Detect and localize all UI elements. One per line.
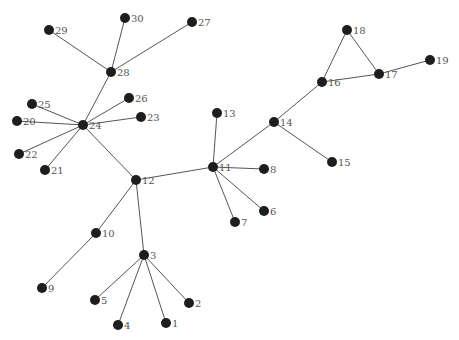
node-20[interactable]: [12, 116, 22, 126]
node-7[interactable]: [230, 217, 240, 227]
node-10[interactable]: [91, 228, 101, 238]
node-6[interactable]: [259, 206, 269, 216]
node-label-30: 30: [131, 13, 144, 24]
node-label-29: 29: [55, 25, 68, 36]
edge-24-12: [83, 125, 136, 180]
node-28[interactable]: [106, 67, 116, 77]
node-label-13: 13: [223, 108, 236, 119]
node-4[interactable]: [113, 320, 123, 330]
node-label-3: 3: [150, 250, 156, 261]
node-15[interactable]: [327, 157, 337, 167]
edge-16-18: [322, 30, 347, 82]
node-label-24: 24: [89, 120, 102, 131]
edge-3-4: [118, 255, 144, 325]
node-5[interactable]: [90, 295, 100, 305]
edge-18-17: [347, 30, 379, 74]
node-label-19: 19: [436, 55, 449, 66]
edge-28-29: [49, 30, 111, 72]
node-label-8: 8: [270, 164, 276, 175]
node-label-18: 18: [353, 25, 366, 36]
node-27[interactable]: [187, 17, 197, 27]
node-label-11: 11: [219, 162, 232, 173]
node-26[interactable]: [124, 93, 134, 103]
network-graph: 1234567891011121314151617181920212223242…: [0, 0, 459, 340]
node-label-23: 23: [147, 112, 160, 123]
node-label-7: 7: [241, 217, 247, 228]
node-label-22: 22: [25, 149, 38, 160]
node-8[interactable]: [259, 164, 269, 174]
node-label-26: 26: [135, 93, 148, 104]
node-label-5: 5: [101, 295, 107, 306]
edge-11-14: [213, 122, 274, 167]
node-label-17: 17: [385, 69, 398, 80]
node-label-16: 16: [328, 77, 341, 88]
edge-28-30: [111, 18, 125, 72]
edge-11-7: [213, 167, 235, 222]
edge-28-27: [111, 22, 192, 72]
node-17[interactable]: [374, 69, 384, 79]
node-2[interactable]: [184, 298, 194, 308]
edge-3-1: [144, 255, 166, 323]
node-25[interactable]: [27, 99, 37, 109]
node-label-12: 12: [142, 175, 155, 186]
edge-3-5: [95, 255, 144, 300]
edge-12-10: [96, 180, 136, 233]
node-30[interactable]: [120, 13, 130, 23]
node-label-4: 4: [124, 320, 130, 331]
node-label-6: 6: [270, 206, 276, 217]
node-23[interactable]: [136, 112, 146, 122]
node-29[interactable]: [44, 25, 54, 35]
node-label-27: 27: [198, 17, 211, 28]
node-label-15: 15: [338, 157, 351, 168]
node-3[interactable]: [139, 250, 149, 260]
node-13[interactable]: [212, 108, 222, 118]
node-24[interactable]: [78, 120, 88, 130]
node-label-2: 2: [195, 298, 201, 309]
edge-24-21: [45, 125, 83, 170]
edge-11-6: [213, 167, 264, 211]
node-1[interactable]: [161, 318, 171, 328]
node-label-20: 20: [23, 116, 36, 127]
edge-12-3: [136, 180, 144, 255]
edge-10-9: [42, 233, 96, 288]
edge-3-2: [144, 255, 189, 303]
node-label-21: 21: [51, 165, 64, 176]
node-9[interactable]: [37, 283, 47, 293]
node-label-1: 1: [172, 318, 178, 329]
node-label-25: 25: [38, 99, 51, 110]
edge-14-15: [274, 122, 332, 162]
node-21[interactable]: [40, 165, 50, 175]
node-19[interactable]: [425, 55, 435, 65]
node-16[interactable]: [317, 77, 327, 87]
node-label-14: 14: [280, 117, 293, 128]
node-18[interactable]: [342, 25, 352, 35]
node-11[interactable]: [208, 162, 218, 172]
label-layer: 1234567891011121314151617181920212223242…: [23, 13, 449, 331]
node-label-9: 9: [48, 283, 54, 294]
node-12[interactable]: [131, 175, 141, 185]
node-label-10: 10: [102, 228, 115, 239]
node-22[interactable]: [14, 149, 24, 159]
node-label-28: 28: [117, 67, 130, 78]
edge-11-13: [213, 113, 217, 167]
node-14[interactable]: [269, 117, 279, 127]
